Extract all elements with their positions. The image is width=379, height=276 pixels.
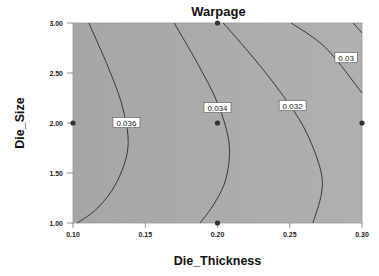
y-tick-label: 2.50: [49, 70, 63, 77]
contour-label: 0.036: [116, 119, 137, 128]
x-tick-label: 0.25: [283, 231, 297, 238]
x-tick-label: 0.20: [211, 231, 225, 238]
contour-chart: Warpage Die_Size Die_Thickness 0.100.150…: [0, 0, 379, 276]
design-point-marker: [215, 220, 220, 225]
x-tick-label: 0.30: [355, 231, 369, 238]
y-tick-label: 1.50: [49, 170, 63, 177]
x-tick-label: 0.10: [66, 231, 80, 238]
y-tick-label: 1.00: [49, 220, 63, 227]
contour-label: 0.034: [207, 104, 228, 113]
x-tick-label: 0.15: [138, 231, 152, 238]
contour-label: 0.03: [338, 54, 354, 63]
contour-label: 0.032: [283, 102, 304, 111]
design-point-marker: [215, 20, 220, 25]
y-tick-label: 2.00: [49, 120, 63, 127]
design-point-marker: [70, 120, 75, 125]
design-point-marker: [359, 120, 364, 125]
y-tick-label: 3.00: [49, 20, 63, 27]
design-point-marker: [215, 120, 220, 125]
plot-area: 0.100.150.200.250.301.001.502.002.503.00…: [0, 0, 379, 276]
